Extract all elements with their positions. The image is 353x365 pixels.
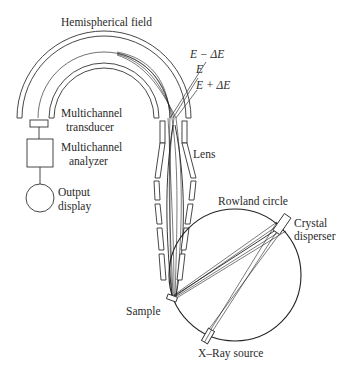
label-output-1: Output	[58, 186, 91, 199]
outer-hemisphere-shell	[17, 31, 191, 118]
spectrometer-diagram: Hemispherical field E − ΔE E E + ΔE Mult…	[0, 0, 353, 365]
label-lens: Lens	[193, 148, 216, 160]
label-analyzer-1: Multichannel	[61, 141, 122, 153]
label-e-plus: E + ΔE	[195, 79, 230, 91]
label-crystal-1: Crystal	[294, 217, 327, 230]
multichannel-transducer-box	[30, 120, 48, 127]
label-rowland-circle: Rowland circle	[218, 195, 288, 207]
hemispherical-field	[17, 31, 191, 118]
label-analyzer-2: analyzer	[69, 155, 108, 168]
multichannel-analyzer-box	[27, 139, 53, 167]
label-e-minus: E − ΔE	[189, 48, 224, 60]
label-e: E	[195, 63, 203, 75]
label-transducer-2: transducer	[66, 121, 114, 133]
label-output-2: display	[58, 200, 91, 213]
label-xray-source: X–Ray source	[198, 347, 263, 360]
label-sample: Sample	[126, 305, 161, 318]
label-crystal-2: disperser	[294, 230, 336, 243]
label-transducer-1: Multichannel	[61, 107, 122, 119]
output-display-circle	[26, 184, 54, 212]
detector-chain	[26, 120, 54, 212]
xray-source	[201, 328, 214, 344]
label-hemispherical-field: Hemispherical field	[61, 16, 152, 29]
